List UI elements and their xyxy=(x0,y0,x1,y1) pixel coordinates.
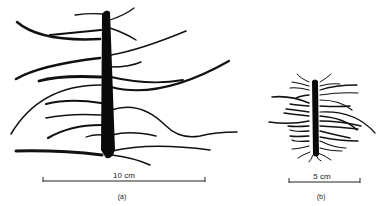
panel-a-plant xyxy=(11,8,237,165)
stem-b xyxy=(312,80,319,157)
stem-a xyxy=(101,10,115,158)
panel-b-plant xyxy=(269,74,375,162)
scale-label-a: 10 cm xyxy=(113,171,135,180)
scale-label-b: 5 cm xyxy=(313,172,331,181)
caption-b: (b) xyxy=(317,193,326,201)
root-diagram: 10 cm (a) xyxy=(0,0,386,206)
caption-a: (a) xyxy=(118,193,127,201)
